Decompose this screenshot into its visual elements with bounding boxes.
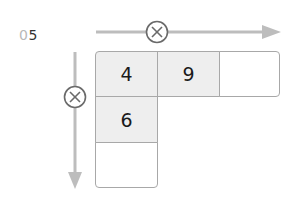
grid-cell-r2c1: 6 (95, 96, 158, 143)
multiply-circle-icon (147, 22, 168, 43)
multiply-circle-icon (65, 87, 86, 108)
grid-cell-r1c2: 9 (157, 51, 220, 97)
grid-cell-r1c3[interactable] (219, 51, 280, 97)
vertical-arrow-icon (68, 52, 82, 189)
grid-cell-r3c1[interactable] (95, 142, 158, 188)
grid-cell-r1c1: 4 (95, 51, 158, 97)
horizontal-arrow-icon (96, 25, 281, 39)
